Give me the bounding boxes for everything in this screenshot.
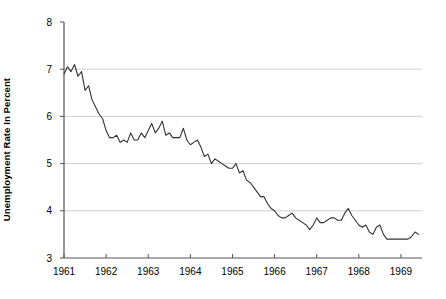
x-tick-label-1965: 1965 (221, 266, 244, 277)
unemployment-rate-chart: Unemployment Rate In Percent 345678 1961… (0, 0, 446, 299)
x-tick-label-1964: 1964 (179, 266, 202, 277)
x-tick-label-1963: 1963 (137, 266, 160, 277)
y-tick-label-3: 3 (46, 253, 52, 264)
x-tick-label-1962: 1962 (95, 266, 118, 277)
gridline-group (64, 69, 422, 211)
y-tick-label-5: 5 (46, 158, 52, 169)
x-tick-label-1968: 1968 (348, 266, 371, 277)
y-tick-label-7: 7 (46, 64, 52, 75)
x-tick-label-1969: 1969 (390, 266, 413, 277)
x-tick-label-1967: 1967 (306, 266, 329, 277)
y-tick-label-4: 4 (46, 205, 52, 216)
x-tick-label-1961: 1961 (53, 266, 76, 277)
plot-area: 345678 196119621963196419651966196719681… (0, 0, 446, 299)
y-tick-group: 345678 (46, 17, 64, 264)
x-tick-label-1966: 1966 (263, 266, 286, 277)
y-tick-label-6: 6 (46, 111, 52, 122)
y-tick-label-8: 8 (46, 17, 52, 28)
unemployment-series-line (64, 64, 419, 239)
